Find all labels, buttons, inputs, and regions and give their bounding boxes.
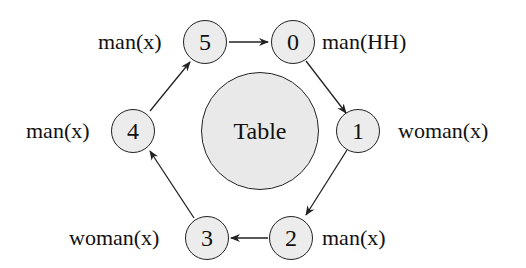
table-label: Table (234, 118, 287, 145)
node-0: 0 (271, 20, 315, 64)
node-5-role: man(x) (98, 31, 162, 53)
node-3: 3 (185, 216, 229, 260)
node-0-role: man(HH) (322, 31, 406, 53)
edge-3-4 (150, 151, 194, 218)
node-4-id: 4 (127, 118, 139, 145)
table-circle: Table (201, 72, 319, 190)
seating-diagram: Table 0 1 2 3 4 5 man(HH) woman(x) man(x… (0, 0, 526, 268)
node-0-id: 0 (287, 29, 299, 56)
node-4: 4 (111, 109, 155, 153)
node-1: 1 (336, 109, 380, 153)
node-1-id: 1 (352, 118, 364, 145)
node-3-role: woman(x) (69, 227, 159, 249)
node-1-role: woman(x) (398, 120, 488, 142)
node-4-role: man(x) (26, 120, 90, 142)
edge-1-2 (306, 150, 347, 215)
node-2-id: 2 (285, 225, 297, 252)
node-5-id: 5 (199, 29, 211, 56)
node-5: 5 (183, 20, 227, 64)
edge-4-5 (150, 62, 190, 111)
node-2: 2 (269, 216, 313, 260)
node-3-id: 3 (201, 225, 213, 252)
node-2-role: man(x) (322, 227, 386, 249)
